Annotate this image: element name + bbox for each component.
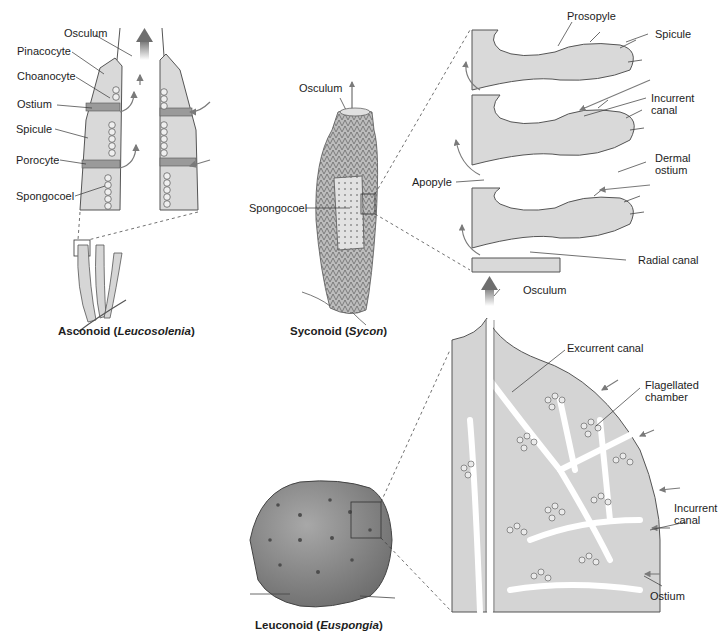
label-asconoid-spongocoel: Spongocoel (16, 190, 74, 202)
caption-asconoid-suffix: ) (191, 325, 195, 337)
label-excurrent-canal: Excurrent canal (567, 342, 643, 354)
label-syconoid-incurrent-canal-line2: canal (651, 104, 677, 116)
label-leuconoid-incurrent-canal-line1: Incurrent (674, 502, 717, 514)
caption-asconoid-prefix: Asconoid ( (58, 325, 117, 337)
label-syconoid-incurrent-canal-line1: Incurrent (651, 92, 694, 104)
label-dermal-ostium-line1: Dermal (655, 152, 690, 164)
caption-syconoid-suffix: ) (383, 325, 387, 337)
syconoid-detail (456, 22, 650, 272)
label-asconoid-porocyte: Porocyte (16, 154, 59, 166)
caption-syconoid-genus: Sycon (349, 325, 384, 337)
label-dermal-ostium-line2: ostium (655, 164, 687, 176)
caption-asconoid-genus: Leucosolenia (117, 325, 191, 337)
label-prosopyle: Prosopyle (567, 10, 616, 22)
sponge-body-plans-illustration (0, 0, 728, 638)
caption-syconoid: Syconoid (Sycon) (290, 325, 387, 337)
label-asconoid-osculum: Osculum (64, 27, 107, 39)
caption-syconoid-prefix: Syconoid ( (290, 325, 349, 337)
label-asconoid-ostium: Ostium (17, 98, 52, 110)
label-flagellated-chamber-line1: Flagellated (645, 379, 699, 391)
caption-leuconoid: Leuconoid (Euspongia) (255, 619, 383, 631)
label-syconoid-spongocoel: Spongocoel (249, 202, 307, 214)
caption-asconoid: Asconoid (Leucosolenia) (58, 325, 195, 337)
label-apopyle: Apopyle (412, 176, 452, 188)
caption-leuconoid-prefix: Leuconoid ( (255, 619, 320, 631)
label-syconoid-spicule: Spicule (655, 28, 691, 40)
label-flagellated-chamber-line2: chamber (645, 391, 688, 403)
label-leuconoid-osculum: Osculum (523, 284, 566, 296)
caption-leuconoid-genus: Euspongia (320, 619, 379, 631)
label-radial-canal: Radial canal (638, 254, 699, 266)
label-asconoid-spicule: Spicule (16, 123, 52, 135)
label-syconoid-osculum: Osculum (299, 82, 342, 94)
label-asconoid-choanocyte: Choanocyte (17, 70, 76, 82)
caption-leuconoid-suffix: ) (379, 619, 383, 631)
label-asconoid-pinacocyte: Pinacocyte (17, 45, 71, 57)
label-leuconoid-ostium: Ostium (650, 590, 685, 602)
asconoid-section (55, 28, 210, 332)
label-leuconoid-incurrent-canal-line2: canal (674, 514, 700, 526)
